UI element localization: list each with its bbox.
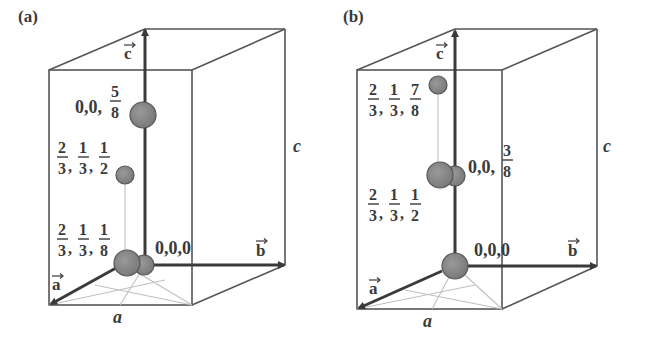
crystal-structure-figure: (a) c	[0, 0, 647, 342]
svg-text:2: 2	[369, 81, 377, 98]
c-vector-label: c	[436, 43, 447, 64]
label-2-3-1-3-1-8: 2 3 , 1 3 , 1 8	[57, 221, 110, 259]
svg-text:2: 2	[58, 139, 66, 156]
panel-a: (a) c	[18, 7, 301, 327]
atom-2-3-1-3-1-8	[114, 250, 140, 276]
a-vector-label: a	[369, 278, 380, 299]
svg-text:,: ,	[89, 158, 93, 175]
atom-2-3-1-3-1-2	[116, 166, 134, 184]
svg-text:2: 2	[58, 221, 66, 238]
svg-text:,: ,	[400, 100, 404, 117]
svg-text:8: 8	[111, 104, 119, 121]
svg-text:2: 2	[100, 160, 108, 177]
svg-text:1: 1	[100, 139, 108, 156]
a-axis-arrow	[51, 263, 125, 304]
svg-text:3: 3	[369, 207, 377, 224]
panel-b-label: (b)	[343, 7, 364, 26]
label-0-0-3-8: 0,0, 3 8	[468, 142, 513, 180]
svg-text:b: b	[568, 241, 577, 260]
svg-text:,: ,	[379, 205, 383, 222]
svg-text:,: ,	[89, 240, 93, 257]
edge-a-label: a	[423, 311, 432, 331]
svg-text:,: ,	[68, 240, 72, 257]
atom-2-3-1-3-1-2	[427, 162, 453, 188]
svg-text:8: 8	[503, 163, 511, 180]
svg-text:5: 5	[111, 83, 119, 100]
svg-text:1: 1	[390, 81, 398, 98]
atom-2-3-1-3-7-8	[429, 76, 447, 94]
svg-text:3: 3	[369, 102, 377, 119]
b-vector-label: b	[256, 239, 267, 261]
label-2-3-1-3-1-2: 2 3 , 1 3 , 1 2	[368, 186, 421, 224]
svg-text:1: 1	[79, 221, 87, 238]
svg-text:3: 3	[390, 102, 398, 119]
atom-0-0-5-8	[130, 102, 156, 128]
label-0-0-0: 0,0,0	[155, 238, 191, 258]
label-0-0-5-8: 0,0, 5 8	[75, 83, 121, 121]
svg-text:0,0,: 0,0,	[468, 157, 495, 177]
panel-b: (b) c b a a	[343, 7, 611, 331]
svg-text:7: 7	[411, 81, 419, 98]
svg-text:3: 3	[58, 160, 66, 177]
svg-text:2: 2	[369, 186, 377, 203]
atom-0-0-0	[442, 253, 468, 279]
svg-text:,: ,	[379, 100, 383, 117]
svg-text:b: b	[256, 241, 265, 260]
svg-text:1: 1	[100, 221, 108, 238]
svg-text:,: ,	[68, 158, 72, 175]
svg-text:1: 1	[411, 186, 419, 203]
svg-text:3: 3	[58, 242, 66, 259]
c-vector-label: c	[124, 43, 135, 64]
svg-text:3: 3	[503, 142, 511, 159]
label-0-0-0: 0,0,0	[474, 240, 510, 260]
svg-text:8: 8	[411, 102, 419, 119]
label-2-3-1-3-1-2: 2 3 , 1 3 , 1 2	[57, 139, 110, 177]
svg-text:1: 1	[390, 186, 398, 203]
svg-text:3: 3	[390, 207, 398, 224]
b-vector-label: b	[568, 239, 579, 261]
svg-text:c: c	[124, 44, 132, 63]
edge-c-label: c	[293, 136, 301, 156]
a-vector-label: a	[52, 274, 63, 295]
svg-text:,: ,	[400, 205, 404, 222]
panel-a-label: (a)	[18, 7, 38, 26]
svg-text:c: c	[436, 44, 444, 63]
edge-c-label: c	[603, 136, 611, 156]
svg-text:1: 1	[79, 139, 87, 156]
svg-text:8: 8	[100, 242, 108, 259]
svg-text:a: a	[52, 275, 61, 294]
svg-text:3: 3	[79, 160, 87, 177]
svg-text:a: a	[369, 279, 378, 298]
svg-text:2: 2	[411, 207, 419, 224]
svg-text:3: 3	[79, 242, 87, 259]
svg-text:0,0,: 0,0,	[75, 97, 102, 117]
edge-a-label: a	[113, 307, 122, 327]
label-2-3-1-3-7-8: 2 3 , 1 3 , 7 8	[368, 81, 421, 119]
